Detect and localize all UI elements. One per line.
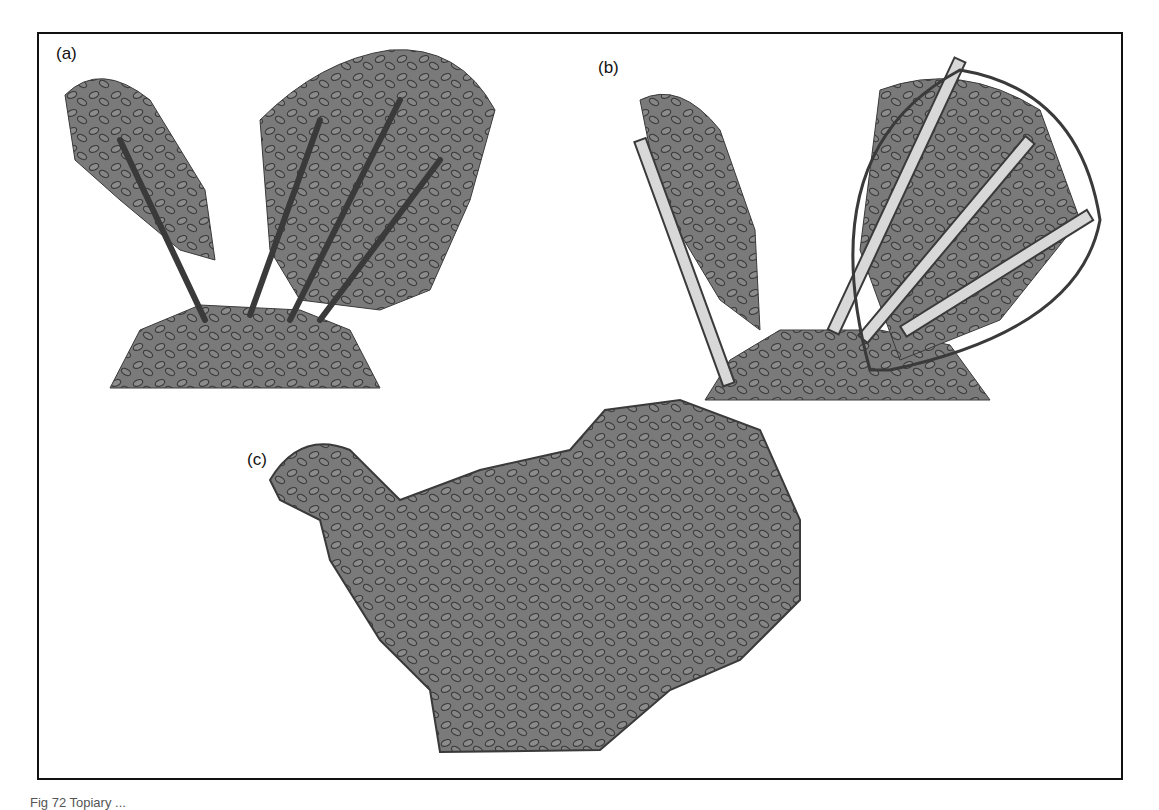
panel-label-c: (c) [247, 450, 267, 470]
panel-a-shrub [65, 50, 495, 388]
figure-caption: Fig 72 Topiary ... [30, 795, 126, 810]
panel-c-topiary-bird [270, 400, 800, 752]
panel-label-a: (a) [56, 44, 77, 64]
panel-b-trained-shrub [634, 57, 1100, 400]
panel-label-b: (b) [598, 58, 619, 78]
